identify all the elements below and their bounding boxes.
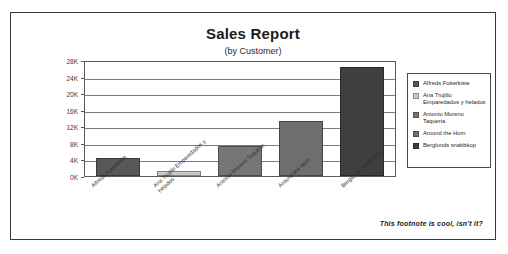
legend-swatch-icon <box>413 93 419 99</box>
report-frame: Sales Report (by Customer) 0K4K8K12K16K2… <box>10 12 496 240</box>
y-axis-tick-label: 12K <box>38 124 78 131</box>
legend-item[interactable]: Alfreds Futterkiste <box>413 80 486 87</box>
x-axis-labels: Alfreds FutterkisteAna Trujillo Empareda… <box>84 178 396 236</box>
x-axis-label-slot: Around the Horn <box>271 178 333 236</box>
y-axis-tick-label: 8K <box>38 140 78 147</box>
legend-item[interactable]: Ana Trujillo Emparedados y helados <box>413 92 486 106</box>
legend-item[interactable]: Berglunds snabbkop <box>413 142 486 149</box>
legend-item-label: Alfreds Futterkiste <box>423 80 470 87</box>
legend-item-label: Around the Horn <box>423 130 466 137</box>
bar-slot <box>271 62 332 176</box>
chart-title: Sales Report <box>11 25 495 42</box>
legend-swatch-icon <box>413 143 419 149</box>
legend-swatch-icon <box>413 131 419 137</box>
y-axis-tick-label: 4K <box>38 157 78 164</box>
y-axis-tick-label: 0K <box>38 174 78 181</box>
legend-item[interactable]: Antonio Moreno Taqueria <box>413 111 486 125</box>
x-axis-label-slot: Antonio Moreno Taqueria <box>209 178 271 236</box>
chart-footnote: This footnote is cool, isn't it? <box>380 220 483 227</box>
legend-item[interactable]: Around the Horn <box>413 130 486 137</box>
chart-subtitle: (by Customer) <box>11 46 495 56</box>
chart-legend: Alfreds FutterkisteAna Trujillo Empareda… <box>407 73 491 168</box>
bar[interactable] <box>340 67 384 176</box>
y-axis-tick-label: 28K <box>38 58 78 65</box>
legend-item-label: Antonio Moreno Taqueria <box>423 111 486 125</box>
x-axis-label-slot: Berglunds snabbkop <box>334 178 396 236</box>
y-axis-tick-label: 16K <box>38 107 78 114</box>
legend-swatch-icon <box>413 81 419 87</box>
y-axis-tick-label: 24K <box>38 74 78 81</box>
legend-item-label: Berglunds snabbkop <box>423 142 476 149</box>
legend-swatch-icon <box>413 112 419 118</box>
x-axis-label-slot: Ana Trujillo Emparedados y helados <box>146 178 208 236</box>
bar-slot <box>209 62 270 176</box>
x-axis-label-slot: Alfreds Futterkiste <box>84 178 146 236</box>
legend-item-label: Ana Trujillo Emparedados y helados <box>423 92 486 106</box>
bar-slot <box>332 62 393 176</box>
bar-series <box>85 62 395 176</box>
y-axis-tick-label: 20K <box>38 91 78 98</box>
